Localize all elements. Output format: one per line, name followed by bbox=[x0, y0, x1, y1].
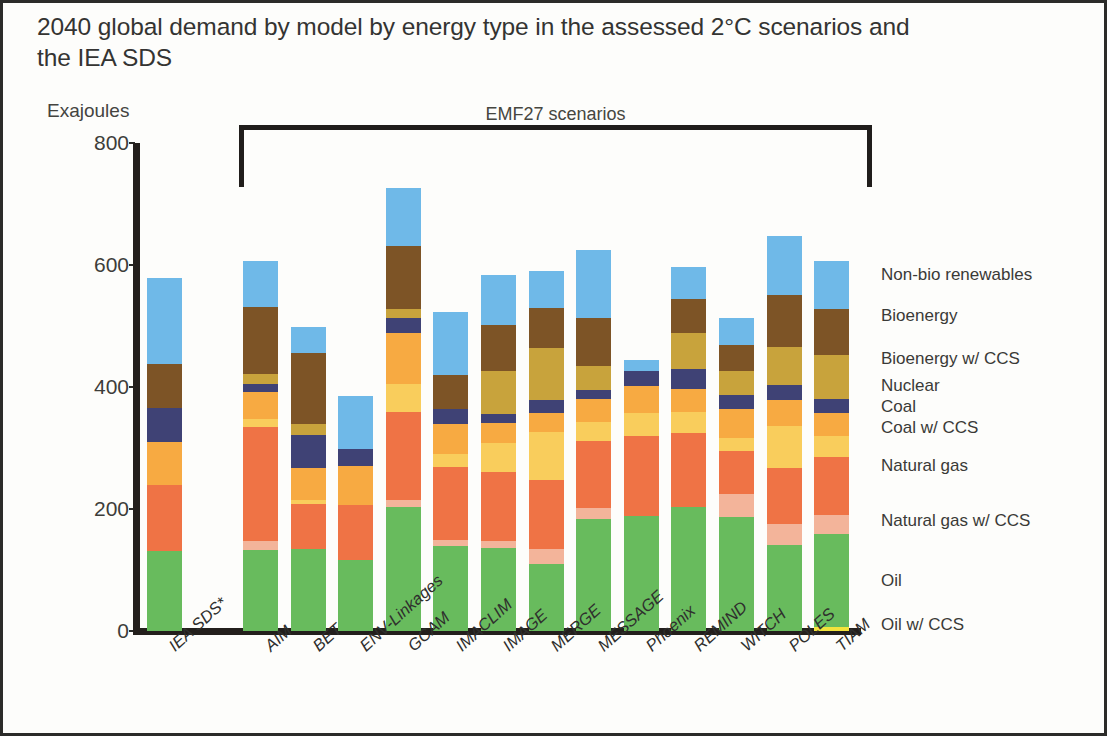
bar-segment bbox=[767, 426, 802, 467]
bar-segment bbox=[719, 409, 754, 438]
bar-segment bbox=[576, 508, 611, 519]
legend-item[interactable]: Non-bio renewables bbox=[881, 265, 1032, 285]
bar-segment bbox=[243, 541, 278, 550]
bar-segment bbox=[433, 409, 468, 424]
bar-segment bbox=[767, 468, 802, 524]
bar-segment bbox=[433, 375, 468, 409]
bar-column[interactable] bbox=[243, 261, 278, 631]
legend-item-label: Oil bbox=[881, 571, 902, 590]
bar-column[interactable] bbox=[767, 236, 802, 631]
bar-segment bbox=[671, 369, 706, 389]
bar-column[interactable] bbox=[291, 327, 326, 631]
bar-segment bbox=[719, 371, 754, 395]
bar-column[interactable] bbox=[481, 275, 516, 631]
legend-item[interactable]: Oil bbox=[881, 571, 902, 591]
bar-segment bbox=[243, 419, 278, 428]
bar-segment bbox=[291, 549, 326, 631]
bar-segment bbox=[386, 188, 421, 246]
y-axis-tick-label: 800 bbox=[43, 131, 129, 155]
emf27-bracket-label: EMF27 scenarios bbox=[239, 104, 872, 125]
bar-segment bbox=[386, 333, 421, 384]
legend-item-label: Bioenergy bbox=[881, 306, 958, 325]
legend-item[interactable]: Oil w/ CCS bbox=[881, 615, 964, 635]
y-axis-tick-label: 600 bbox=[43, 253, 129, 277]
legend-item-label: Coal bbox=[881, 397, 916, 416]
bar-column[interactable] bbox=[147, 278, 182, 631]
bar-segment bbox=[433, 454, 468, 467]
bar-segment bbox=[624, 386, 659, 413]
bar-segment bbox=[671, 433, 706, 506]
bar-segment bbox=[291, 327, 326, 354]
bar-column[interactable] bbox=[386, 188, 421, 631]
legend-item[interactable]: Bioenergy w/ CCS bbox=[881, 349, 1020, 369]
bar-segment bbox=[767, 524, 802, 545]
legend-item[interactable]: Nuclear bbox=[881, 376, 940, 396]
y-axis-ticks: 0200400600800 bbox=[35, 143, 129, 632]
legend-item[interactable]: Coal w/ CCS bbox=[881, 418, 978, 438]
bar-segment bbox=[529, 400, 564, 413]
bar-segment bbox=[243, 392, 278, 419]
legend-item[interactable]: Coal bbox=[881, 397, 916, 417]
bar-segment bbox=[481, 443, 516, 473]
bar-segment bbox=[767, 347, 802, 385]
bar-segment bbox=[671, 267, 706, 298]
legend-item[interactable]: Natural gas bbox=[881, 456, 968, 476]
legend-item-label: Natural gas w/ CCS bbox=[881, 511, 1030, 530]
bar-segment bbox=[386, 384, 421, 412]
bar-segment bbox=[386, 412, 421, 500]
bar-column[interactable] bbox=[671, 267, 706, 631]
bar-segment bbox=[814, 261, 849, 309]
plot-area bbox=[139, 143, 857, 631]
bar-segment bbox=[386, 500, 421, 507]
bar-segment bbox=[338, 449, 373, 467]
bar-segment bbox=[767, 385, 802, 400]
bar-segment bbox=[481, 275, 516, 325]
bar-segment bbox=[433, 467, 468, 540]
legend-item-label: Bioenergy w/ CCS bbox=[881, 349, 1020, 368]
bar-column[interactable] bbox=[529, 271, 564, 632]
bar-segment bbox=[433, 424, 468, 454]
bar-segment bbox=[719, 438, 754, 451]
bar-segment bbox=[719, 318, 754, 345]
bar-segment bbox=[529, 480, 564, 549]
bar-segment bbox=[481, 423, 516, 443]
bar-segment bbox=[814, 399, 849, 412]
bar-segment bbox=[719, 345, 754, 371]
bar-column[interactable] bbox=[719, 318, 754, 631]
bar-segment bbox=[576, 422, 611, 441]
bar-segment bbox=[814, 515, 849, 535]
bar-segment bbox=[338, 505, 373, 561]
bar-segment bbox=[767, 236, 802, 295]
bar-segment bbox=[576, 366, 611, 390]
bar-segment bbox=[767, 400, 802, 426]
bar-segment bbox=[147, 551, 182, 631]
bar-column[interactable] bbox=[338, 396, 373, 631]
bar-segment bbox=[624, 436, 659, 516]
legend-item[interactable]: Bioenergy bbox=[881, 306, 958, 326]
bar-segment bbox=[814, 355, 849, 400]
bar-segment bbox=[481, 414, 516, 423]
bar-segment bbox=[386, 246, 421, 309]
bar-segment bbox=[291, 424, 326, 435]
bar-segment bbox=[291, 504, 326, 550]
y-axis-unit-label: Exajoules bbox=[47, 100, 129, 122]
bar-column[interactable] bbox=[814, 261, 849, 631]
bar-segment bbox=[529, 308, 564, 348]
chart-figure: 2040 global demand by model by energy ty… bbox=[0, 0, 1107, 736]
bar-segment bbox=[767, 295, 802, 347]
bar-segment bbox=[386, 318, 421, 333]
bar-segment bbox=[481, 371, 516, 414]
bar-segment bbox=[671, 333, 706, 370]
bar-segment bbox=[433, 312, 468, 375]
bar-segment bbox=[147, 364, 182, 409]
bar-segment bbox=[671, 299, 706, 333]
legend-item[interactable]: Natural gas w/ CCS bbox=[881, 511, 1030, 531]
bar-segment bbox=[671, 389, 706, 412]
bar-segment bbox=[719, 451, 754, 494]
bar-column[interactable] bbox=[576, 250, 611, 631]
legend-item-label: Natural gas bbox=[881, 456, 968, 475]
bar-segment bbox=[576, 390, 611, 399]
bar-segment bbox=[338, 466, 373, 504]
bar-segment bbox=[147, 408, 182, 442]
bar-segment bbox=[147, 442, 182, 485]
